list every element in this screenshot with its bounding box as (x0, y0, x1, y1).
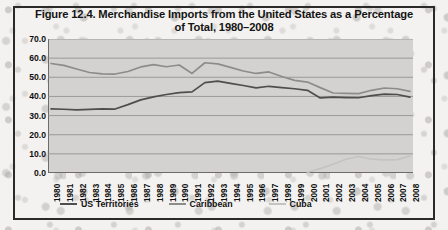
legend-item-us-territories: US Territories (60, 199, 139, 209)
series-line-cuba (307, 156, 410, 172)
chart-legend: US Territories Caribbean Cuba (60, 197, 390, 211)
series-line-caribbean (51, 63, 410, 94)
plot-wrapper (48, 39, 413, 173)
chart-title: Figure 12.4. Merchandise Imports from th… (22, 8, 426, 34)
legend-swatch-caribbean (169, 203, 186, 205)
x-axis-tick-label: 2008 (413, 184, 421, 202)
legend-swatch-cuba (269, 203, 286, 205)
legend-label-cuba: Cuba (290, 199, 312, 209)
y-axis-tick-label: 30.0 (29, 112, 46, 120)
legend-label-us-territories: US Territories (81, 199, 139, 209)
legend-item-caribbean: Caribbean (169, 199, 233, 209)
y-axis-tick-label: 40.0 (29, 92, 46, 100)
chart-title-line-1: Figure 12.4. Merchandise Imports from th… (22, 8, 426, 21)
figure-container: Figure 12.4. Merchandise Imports from th… (0, 0, 448, 230)
y-axis-tick-label: 70.0 (29, 35, 46, 43)
y-axis-labels: 0.010.020.030.040.050.060.070.0 (12, 33, 46, 179)
chart-lines (48, 39, 413, 173)
legend-item-cuba: Cuba (269, 199, 312, 209)
y-axis-tick-label: 0.0 (34, 169, 46, 177)
y-axis-tick-label: 10.0 (29, 150, 46, 158)
legend-swatch-us-territories (60, 203, 77, 205)
y-axis-tick-label: 20.0 (29, 131, 46, 139)
y-axis-tick-label: 50.0 (29, 73, 46, 81)
series-line-us-territories (51, 81, 410, 110)
chart-title-line-2: of Total, 1980–2008 (22, 21, 426, 34)
legend-label-caribbean: Caribbean (190, 199, 233, 209)
y-axis-tick-label: 60.0 (29, 54, 46, 62)
x-axis-tick-label: 2007 (400, 184, 408, 202)
